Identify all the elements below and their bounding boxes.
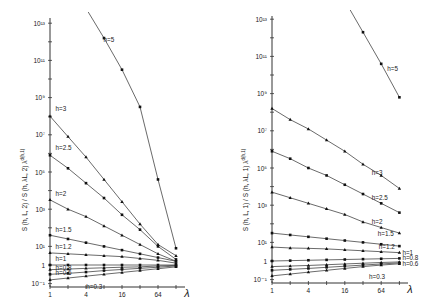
data-marker-square [362,31,365,34]
series-line [345,1,400,98]
data-marker-square [85,241,88,244]
data-marker-square [344,183,347,186]
y-tick-label: 10³ [36,206,46,213]
data-marker-square [362,193,365,196]
x-tick-label: 16 [118,291,126,298]
data-marker-triangle [270,190,273,193]
series-label: h=1.2 [55,243,71,250]
y-tick-label: 10¹¹ [33,57,45,64]
series-label: h=0.3 [369,273,385,280]
data-marker-square [49,264,52,267]
data-marker-square [103,264,106,267]
y-tick-label: 10¹ [36,243,46,250]
data-marker-square [139,228,142,231]
data-marker-square [307,259,310,262]
x-tick-label: 4 [84,291,88,298]
series-label: h=3 [372,169,383,176]
data-marker-square [139,253,142,256]
y-tick-label: 10¹¹ [255,53,267,60]
data-marker-square [362,241,365,244]
series-label: h=5 [387,65,398,72]
data-marker-square [398,245,401,248]
x-tick-label: 64 [378,287,386,294]
data-marker-square [307,167,310,170]
right-chart-panel: 10¹³10¹¹10⁹10⁷10⁵10³10¹110⁻¹141664λh=5h=… [254,0,419,295]
data-marker-square [103,197,106,200]
data-marker-square [103,245,106,248]
data-marker-square [85,271,88,274]
y-tick-label: 10⁵ [257,165,267,172]
data-marker-square [157,178,160,181]
y-tick-label: 10¹³ [255,16,267,23]
series-label: h=0.6 [55,269,71,276]
data-marker-square [289,234,292,237]
left-y-axis-label: S (h, L, 2) / S (h, λL, 2) λd(h,1) [20,148,29,231]
x-tick-label: 1 [270,287,274,294]
data-marker-square [157,245,160,248]
data-marker-triangle [398,187,401,190]
y-tick-label: 10⁵ [35,169,45,176]
series-label: h=3 [55,105,66,112]
data-marker-square [271,260,274,263]
data-marker-square [85,7,88,10]
data-marker-triangle [48,198,51,201]
y-tick-label: 10⁻¹ [254,276,268,283]
data-marker-square [307,267,310,270]
data-marker-square [289,268,292,271]
x-tick-label: 1 [48,291,52,298]
series-label: h=0.6 [402,260,418,267]
data-marker-square [289,259,292,262]
series-label: h=5 [104,36,115,43]
x-tick-label: 4 [307,287,311,294]
data-marker-square [67,238,70,241]
data-marker-triangle [361,162,364,165]
y-tick-label: 10⁷ [35,131,45,138]
series-label: h=1.5 [55,226,71,233]
data-marker-square [121,249,124,252]
series-label: h=1.2 [379,243,395,250]
data-marker-square [325,174,328,177]
series-label: h=2.5 [372,194,388,201]
data-marker-square [380,257,383,260]
data-marker-square [121,268,124,271]
x-tick-label: 16 [341,287,349,294]
data-marker-square [157,256,160,259]
data-marker-square [362,258,365,261]
data-marker-square [67,167,70,170]
data-marker-square [344,258,347,261]
x-axis-label: λ [183,287,189,299]
data-marker-square [121,213,124,216]
series-label: h=1 [55,255,66,262]
data-marker-square [344,0,347,2]
figure: 10¹³10¹¹10⁹10⁷10⁵10³10¹110⁻¹141664λh=5h=… [0,0,442,299]
series-label: h=1.5 [378,230,394,237]
data-marker-square [307,236,310,239]
y-tick-label: 1 [263,258,267,265]
data-marker-square [398,257,401,260]
data-marker-square [325,259,328,262]
left-chart-panel: 10¹³10¹¹10⁹10⁷10⁵10³10¹110⁻¹141664λh=5h=… [32,0,190,299]
data-marker-square [325,266,328,269]
y-tick-label: 10⁹ [257,90,267,97]
series-label: h=2 [372,218,383,225]
data-marker-square [85,264,88,267]
y-tick-label: 10¹ [258,239,268,246]
data-marker-square [85,182,88,185]
data-marker-square [121,68,124,71]
y-tick-label: 10⁹ [35,94,45,101]
series-label: h=0.3 [86,283,102,290]
series-label: h=2.5 [55,144,71,151]
data-marker-square [344,239,347,242]
data-marker-square [271,150,274,153]
data-marker-square [398,96,401,99]
data-marker-square [175,247,178,250]
y-tick-label: 10¹³ [33,20,45,27]
data-marker-square [380,202,383,205]
y-tick-label: 1 [41,262,45,269]
data-marker-square [398,211,401,214]
data-marker-square [103,269,106,272]
data-marker-square [271,232,274,235]
x-axis-label: λ [406,283,412,295]
data-marker-square [271,269,274,272]
data-marker-square [49,234,52,237]
